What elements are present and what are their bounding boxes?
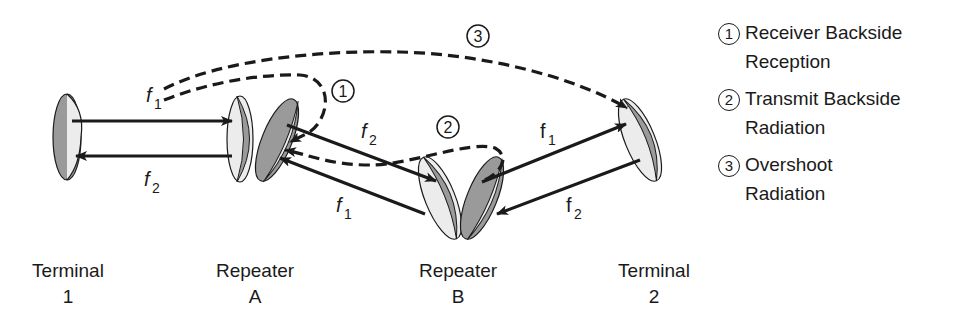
legend-text-line: Reception bbox=[745, 47, 902, 76]
svg-text:2: 2 bbox=[574, 206, 582, 222]
path-marker-1: 1 bbox=[332, 80, 354, 102]
svg-text:f: f bbox=[144, 168, 152, 190]
freq-label-ra-rb-bottom: f 1 bbox=[336, 194, 352, 222]
svg-text:f: f bbox=[361, 120, 369, 142]
legend-item-overshoot: 3 Overshoot Radiation bbox=[718, 154, 968, 208]
station-name: Repeater bbox=[398, 258, 518, 284]
freq-label-ra-rb-top: f 2 bbox=[361, 120, 377, 148]
svg-text:1: 1 bbox=[344, 206, 352, 222]
svg-text:1: 1 bbox=[339, 83, 348, 100]
legend: 1 Receiver Backside Reception 2 Transmit… bbox=[718, 22, 968, 220]
station-name: Terminal bbox=[8, 258, 128, 284]
legend-text-line: Overshoot bbox=[745, 150, 833, 179]
station-id: A bbox=[195, 284, 315, 310]
station-label-terminal-2: Terminal 2 bbox=[594, 258, 714, 310]
dish-repeater-a-east bbox=[247, 94, 308, 187]
svg-text:2: 2 bbox=[369, 132, 377, 148]
freq-label-t1-bottom: f 2 bbox=[144, 168, 160, 196]
svg-text:1: 1 bbox=[154, 96, 162, 112]
svg-text:2: 2 bbox=[444, 119, 453, 136]
station-label-repeater-b: Repeater B bbox=[398, 258, 518, 310]
station-id: 2 bbox=[594, 284, 714, 310]
legend-number-badge: 3 bbox=[718, 155, 740, 177]
legend-text-line: Radiation bbox=[745, 179, 833, 208]
svg-text:2: 2 bbox=[152, 180, 160, 196]
station-name: Repeater bbox=[195, 258, 315, 284]
dish-repeater-b-east bbox=[452, 152, 513, 245]
legend-text-line: Receiver Backside bbox=[745, 18, 902, 47]
svg-text:1: 1 bbox=[548, 132, 556, 148]
svg-text:f: f bbox=[566, 194, 572, 216]
svg-text:f: f bbox=[336, 194, 344, 216]
svg-text:f: f bbox=[540, 120, 546, 142]
freq-label-t1-top: f 1 bbox=[146, 84, 162, 112]
station-label-repeater-a: Repeater A bbox=[195, 258, 315, 310]
dish-terminal-2 bbox=[610, 94, 671, 187]
legend-number-badge: 1 bbox=[718, 23, 740, 45]
svg-text:3: 3 bbox=[474, 28, 483, 45]
station-name: Terminal bbox=[594, 258, 714, 284]
svg-text:f: f bbox=[146, 84, 154, 106]
station-label-terminal-1: Terminal 1 bbox=[8, 258, 128, 310]
freq-label-rb-t2-top: f 1 bbox=[540, 120, 556, 148]
dish-terminal-1 bbox=[53, 94, 82, 180]
dish-repeater-a-west bbox=[227, 96, 253, 182]
legend-item-transmit-backside: 2 Transmit Backside Radiation bbox=[718, 88, 968, 142]
path-marker-3: 3 bbox=[467, 25, 489, 47]
path-marker-2: 2 bbox=[437, 116, 459, 138]
legend-text-line: Transmit Backside bbox=[745, 84, 901, 113]
legend-item-receiver-backside: 1 Receiver Backside Reception bbox=[718, 22, 968, 76]
legend-text-line: Radiation bbox=[745, 113, 901, 142]
legend-number-badge: 2 bbox=[718, 89, 740, 111]
freq-label-rb-t2-bottom: f 2 bbox=[566, 194, 582, 222]
station-id: B bbox=[398, 284, 518, 310]
station-id: 1 bbox=[8, 284, 128, 310]
